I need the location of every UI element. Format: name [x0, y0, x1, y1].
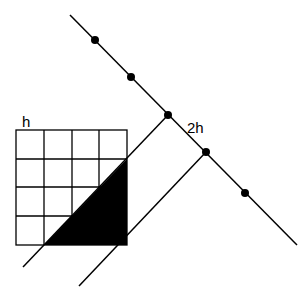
diagram-canvas: h 2h	[0, 0, 308, 296]
point	[241, 189, 249, 197]
label-2h: 2h	[187, 119, 204, 136]
point	[91, 36, 99, 44]
point	[164, 111, 172, 119]
point	[202, 148, 210, 156]
point	[127, 73, 135, 81]
label-h: h	[22, 113, 30, 130]
